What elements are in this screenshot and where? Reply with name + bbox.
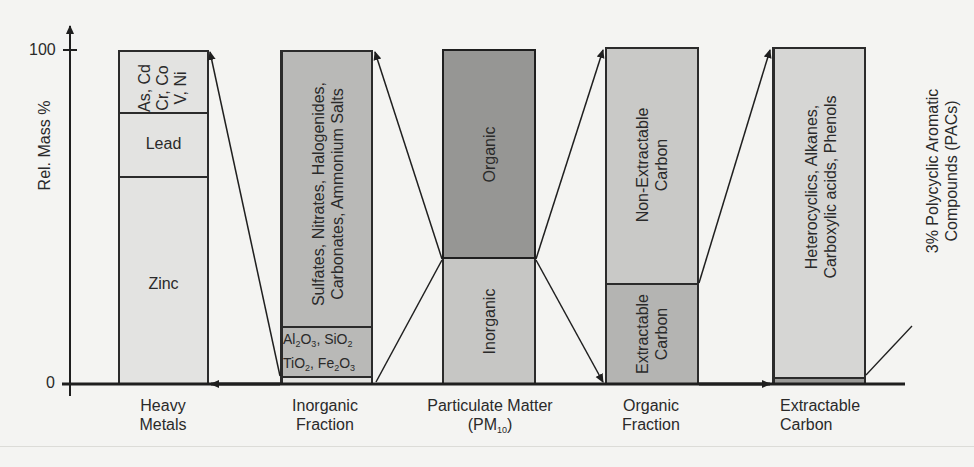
salts-text: Sulfates, Nitrates, Halogenides, Carbona… [309,62,347,326]
pacs-annotation: 3% Polycyclic Aromatic Compounds (PACs) [923,76,961,266]
arrow-to-organic-top [536,50,603,259]
organic-text: Organic [480,105,499,205]
label-organic-fraction: Organic Fraction [596,396,706,434]
trace-metals-text: As, Cd Cr, Co V, Ni [136,50,190,126]
arrow-to-organic-bottom [536,260,603,382]
y-axis-label: Rel. Mass % [35,96,54,196]
label-heavy-metals: Heavy Metals [108,396,218,434]
zinc-text: Zinc [118,274,209,293]
arrow-to-heavy-metals-top [210,52,280,376]
arrow-to-inorganic-top [375,52,442,259]
lead-text: Lead [118,134,209,153]
oxides-line-1: Al2O3, SiO2 [283,330,373,354]
oxides-text: Al2O3, SiO2 TiO2, Fe2O3 [283,330,373,378]
y-tick-label-100: 100 [29,41,56,59]
oxides-line-2: TiO2, Fe2O3 [283,354,373,378]
y-tick-label-0: 0 [46,374,55,392]
other-organics-text: Heterocyclics, Alkanes, Carboxylic acids… [802,92,840,282]
label-extractable-carbon: Extractable Carbon [762,396,872,434]
inorganic-text: Inorganic [480,272,499,372]
label-inorganic-fraction: Inorganic Fraction [270,396,380,434]
diagram-root: 100 0 Rel. Mass % As, Cd Cr, Co V, Ni Le… [0,0,974,467]
extractable-text: Extractable Carbon [633,284,671,384]
pacs-leader-line [866,326,912,375]
non-extractable-text: Non-Extractable Carbon [633,95,671,235]
label-particulate-matter: Particulate Matter (PM10) [420,396,560,440]
line-to-inorganic-bottom [376,260,442,382]
arrow-to-extractable-top [699,50,770,283]
pm10-label: (PM10) [420,415,560,440]
